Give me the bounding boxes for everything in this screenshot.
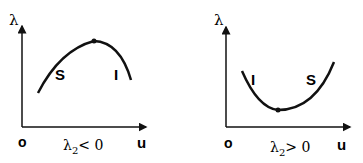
y-axis-label: λ bbox=[9, 11, 19, 29]
curve-minimum bbox=[242, 62, 334, 110]
turning-point bbox=[92, 39, 97, 44]
y-axis-label: λ bbox=[214, 11, 224, 29]
caption: λ2< 0 bbox=[63, 137, 103, 156]
x-axis-label: u bbox=[337, 136, 346, 153]
bifurcation-diagram: λ u o S I λ2< 0 λ u o I S λ2> 0 bbox=[0, 0, 363, 163]
turning-point bbox=[276, 108, 281, 113]
branch-label-right: S bbox=[306, 71, 316, 88]
origin-label: o bbox=[224, 135, 233, 151]
origin-label: o bbox=[18, 134, 27, 150]
caption: λ2> 0 bbox=[270, 139, 310, 158]
branch-label-left: S bbox=[55, 66, 65, 83]
panel-left: λ u o S I λ2< 0 bbox=[9, 11, 146, 156]
x-axis-label: u bbox=[137, 134, 146, 151]
panel-right: λ u o I S λ2> 0 bbox=[214, 11, 350, 158]
branch-label-right: I bbox=[114, 66, 118, 83]
branch-label-left: I bbox=[251, 71, 255, 88]
